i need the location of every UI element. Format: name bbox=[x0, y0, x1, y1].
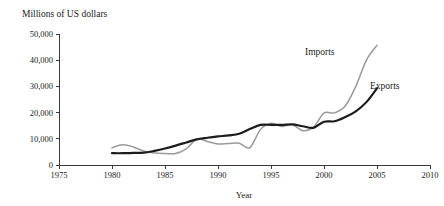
y-tick-label: 40,000 bbox=[30, 55, 53, 65]
series-labels: ImportsExports bbox=[305, 47, 400, 91]
x-axis: 19751980198519901995200020052010 bbox=[51, 165, 439, 180]
series-label-imports: Imports bbox=[305, 47, 335, 57]
x-tick-label: 2005 bbox=[369, 170, 386, 180]
x-tick-label: 1985 bbox=[157, 170, 174, 180]
y-tick-label: 20,000 bbox=[30, 108, 53, 118]
unit-caption: Millions of US dollars bbox=[22, 9, 108, 19]
y-tick-label: 30,000 bbox=[30, 81, 53, 91]
x-tick-label: 1990 bbox=[210, 170, 227, 180]
x-tick-label: 2000 bbox=[316, 170, 333, 180]
x-tick-label: 1975 bbox=[51, 170, 68, 180]
y-tick-label: 0 bbox=[49, 160, 53, 170]
line-chart-figure: Millions of US dollars 010,00020,00030,0… bbox=[0, 0, 444, 206]
series-lines bbox=[112, 45, 377, 154]
chart-canvas: Millions of US dollars 010,00020,00030,0… bbox=[0, 0, 444, 206]
series-line-exports bbox=[112, 88, 377, 153]
y-axis: 010,00020,00030,00040,00050,000 bbox=[30, 29, 59, 170]
x-tick-label: 1995 bbox=[263, 170, 280, 180]
y-tick-label: 10,000 bbox=[30, 134, 53, 144]
x-tick-label: 2010 bbox=[422, 170, 439, 180]
y-tick-label: 50,000 bbox=[30, 29, 53, 39]
series-label-exports: Exports bbox=[370, 81, 400, 91]
x-tick-label: 1980 bbox=[104, 170, 121, 180]
chart-caption-group: Millions of US dollars bbox=[22, 9, 108, 19]
x-axis-title-group: Year bbox=[236, 190, 253, 200]
series-line-imports bbox=[112, 45, 377, 154]
x-axis-title: Year bbox=[236, 190, 253, 200]
